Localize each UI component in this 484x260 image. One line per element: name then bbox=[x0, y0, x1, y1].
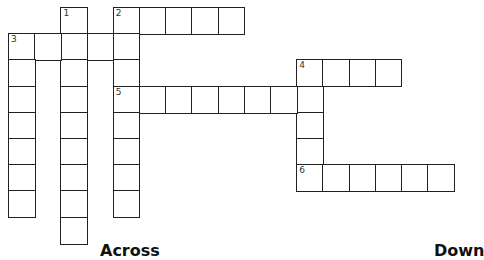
crossword-cell[interactable] bbox=[113, 59, 141, 87]
crossword-cell[interactable] bbox=[296, 112, 324, 140]
crossword-cell[interactable] bbox=[60, 164, 88, 192]
clue-number: 1 bbox=[63, 9, 69, 18]
crossword-cell[interactable] bbox=[296, 138, 324, 166]
crossword-cell[interactable]: 4 bbox=[296, 59, 324, 87]
crossword-cell[interactable] bbox=[34, 33, 62, 61]
crossword-cell[interactable] bbox=[375, 164, 403, 192]
crossword-cell[interactable] bbox=[139, 7, 167, 35]
crossword-cell[interactable] bbox=[244, 86, 272, 114]
crossword-cell[interactable] bbox=[113, 138, 141, 166]
crossword-cell[interactable] bbox=[139, 86, 167, 114]
down-heading: Down bbox=[434, 243, 484, 259]
crossword-cell[interactable]: 2 bbox=[113, 7, 141, 35]
crossword-cell[interactable] bbox=[113, 112, 141, 140]
crossword-cell[interactable] bbox=[349, 164, 377, 192]
clue-number: 3 bbox=[11, 35, 17, 44]
crossword-cell[interactable] bbox=[8, 138, 36, 166]
crossword-cell[interactable] bbox=[60, 59, 88, 87]
crossword-cell[interactable] bbox=[218, 7, 246, 35]
crossword-cell[interactable] bbox=[113, 164, 141, 192]
crossword-cell[interactable] bbox=[218, 86, 246, 114]
crossword-cell[interactable] bbox=[87, 33, 115, 61]
crossword-cell[interactable]: 1 bbox=[60, 7, 88, 35]
crossword-cell[interactable] bbox=[8, 112, 36, 140]
crossword-cell[interactable] bbox=[165, 86, 193, 114]
crossword-cell[interactable] bbox=[191, 7, 219, 35]
crossword-cell[interactable] bbox=[322, 164, 350, 192]
crossword-cell[interactable] bbox=[8, 190, 36, 218]
crossword-cell[interactable] bbox=[60, 190, 88, 218]
crossword-cell[interactable] bbox=[375, 59, 403, 87]
crossword-cell[interactable] bbox=[427, 164, 455, 192]
crossword-cell[interactable] bbox=[60, 33, 88, 61]
crossword-cell[interactable] bbox=[60, 86, 88, 114]
crossword-cell[interactable] bbox=[60, 138, 88, 166]
crossword-cell[interactable] bbox=[60, 217, 88, 245]
clue-number: 2 bbox=[116, 9, 122, 18]
crossword-cell[interactable] bbox=[349, 59, 377, 87]
crossword-cell[interactable] bbox=[113, 190, 141, 218]
across-heading: Across bbox=[100, 243, 160, 259]
crossword-cell[interactable] bbox=[113, 33, 141, 61]
clue-number: 6 bbox=[299, 166, 305, 175]
crossword-cell[interactable] bbox=[191, 86, 219, 114]
crossword-cell[interactable] bbox=[8, 86, 36, 114]
crossword-cell[interactable] bbox=[270, 86, 298, 114]
clue-number: 4 bbox=[299, 61, 305, 70]
crossword-cell[interactable] bbox=[60, 112, 88, 140]
crossword-cell[interactable] bbox=[401, 164, 429, 192]
crossword-cell[interactable] bbox=[8, 59, 36, 87]
crossword-cell[interactable] bbox=[8, 164, 36, 192]
crossword-cell[interactable]: 6 bbox=[296, 164, 324, 192]
crossword-cell[interactable] bbox=[165, 7, 193, 35]
crossword-cell[interactable]: 5 bbox=[113, 86, 141, 114]
crossword-cell[interactable]: 3 bbox=[8, 33, 36, 61]
clue-number: 5 bbox=[116, 88, 122, 97]
crossword-cell[interactable] bbox=[322, 59, 350, 87]
crossword-cell[interactable] bbox=[296, 86, 324, 114]
